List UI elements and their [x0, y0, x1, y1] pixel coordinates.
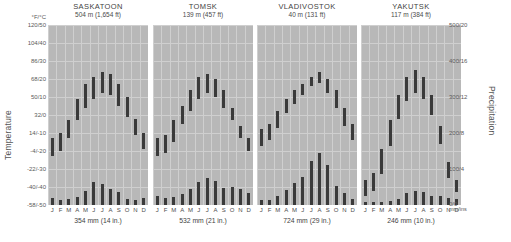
gridline-vertical [428, 25, 429, 205]
gridline-vertical [315, 25, 316, 205]
gridline-vertical [349, 25, 350, 205]
temperature-range-bar [430, 95, 433, 115]
temperature-range-bar [84, 84, 87, 107]
temperature-range-bar [134, 119, 137, 135]
annual-precipitation-total: 724 mm (29 in.) [249, 216, 365, 225]
gridline-vertical [73, 25, 74, 205]
month-label: A [178, 206, 186, 214]
month-axis: JFMAMJJASOND [48, 206, 148, 214]
month-label: D [245, 206, 253, 214]
temperature-range-bar [351, 124, 354, 140]
month-label: M [274, 206, 282, 214]
station-elevation: 139 m (457 ft) [147, 11, 259, 19]
precipitation-bar [231, 187, 234, 205]
month-label: M [81, 206, 89, 214]
precipitation-bar [405, 193, 408, 205]
month-label: J [411, 206, 419, 214]
month-label: J [98, 206, 106, 214]
temperature-axis: Temperature °F/°C 120/50104/4086/3068/20… [0, 0, 48, 242]
gridline-vertical [369, 25, 370, 205]
precipitation-bar [164, 198, 167, 205]
temperature-tick: 120/50 [28, 22, 46, 28]
temperature-range-bar [372, 173, 375, 191]
station-name: TOMSK [147, 2, 259, 11]
month-label: A [73, 206, 81, 214]
precipitation-bar [172, 197, 175, 205]
gridline-vertical [195, 25, 196, 205]
temperature-range-bar [59, 133, 62, 151]
precipitation-bar [293, 183, 296, 205]
temperature-tick: -4/-20 [30, 148, 46, 154]
temperature-range-bar [364, 180, 367, 196]
precipitation-bar [326, 165, 329, 205]
temperature-tick: 104/40 [28, 40, 46, 46]
temperature-range-bar [310, 77, 313, 86]
precipitation-bar [380, 202, 383, 205]
precipitation-bar [276, 196, 279, 205]
panel-header: VLADIVOSTOK40 m (131 ft) [251, 2, 363, 19]
precipitation-bar [389, 201, 392, 205]
precipitation-tick: 200/8 [449, 130, 464, 136]
month-label: J [361, 206, 369, 214]
gridline-vertical [170, 25, 171, 205]
month-label: F [265, 206, 273, 214]
month-label: N [236, 206, 244, 214]
month-label: M [394, 206, 402, 214]
gridline-vertical [236, 25, 237, 205]
month-label: J [403, 206, 411, 214]
gridline-vertical [161, 25, 162, 205]
precipitation-axis: 500/20400/16300/12200/8100/40/0 mm/ins [449, 0, 511, 242]
precipitation-bar [268, 200, 271, 205]
temperature-range-bar [405, 77, 408, 100]
temperature-range-bar [189, 90, 192, 112]
precipitation-bar [260, 200, 263, 205]
gridline-vertical [65, 25, 66, 205]
temperature-range-bar [276, 111, 279, 127]
temperature-range-bar [301, 84, 304, 95]
gridline-vertical [81, 25, 82, 205]
precipitation-bar [189, 189, 192, 205]
precipitation-bar [439, 196, 442, 205]
precipitation-bar [372, 202, 375, 205]
temperature-range-bar [422, 77, 425, 99]
plot-area [361, 25, 461, 205]
climograph-panel: SASKATOON504 m (1,654 ft)JFMAMJJASOND354… [48, 0, 148, 242]
precipitation-bar [84, 191, 87, 205]
month-label: J [90, 206, 98, 214]
gridline-vertical [411, 25, 412, 205]
month-label: J [153, 206, 161, 214]
gridline-vertical [56, 25, 57, 205]
month-label: S [220, 206, 228, 214]
month-label: M [186, 206, 194, 214]
month-label: A [315, 206, 323, 214]
gridline-vertical [436, 25, 437, 205]
climograph-panel: TOMSK139 m (457 ft)JFMAMJJASOND532 mm (2… [153, 0, 253, 242]
temperature-range-bar [239, 126, 242, 139]
gridline-vertical [48, 25, 49, 205]
precipitation-bar [156, 196, 159, 205]
temperature-range-bar [293, 90, 296, 104]
plot-area [48, 25, 148, 205]
temperature-range-bar [343, 108, 346, 126]
climograph-panel: YAKUTSK117 m (384 ft)JFMAMJJASOND246 mm … [361, 0, 461, 242]
gridline-vertical [274, 25, 275, 205]
annual-precipitation-total: 532 mm (21 in.) [145, 216, 261, 225]
precipitation-bar [76, 197, 79, 205]
station-elevation: 504 m (1,654 ft) [42, 11, 154, 19]
month-axis: JFMAMJJASOND [361, 206, 461, 214]
temperature-tick: -22/-30 [27, 166, 46, 172]
month-label: O [436, 206, 444, 214]
station-name: VLADIVOSTOK [251, 2, 363, 11]
gridline-vertical [324, 25, 325, 205]
precipitation-tick: 100/4 [449, 166, 464, 172]
temperature-range-bar [326, 79, 329, 93]
precipitation-bar [364, 202, 367, 205]
month-label: O [332, 206, 340, 214]
temperature-range-bar [389, 120, 392, 145]
temperature-tick: 14/-10 [29, 130, 46, 136]
month-label: A [419, 206, 427, 214]
month-label: N [340, 206, 348, 214]
temperature-range-bar [206, 74, 209, 94]
station-name: SASKATOON [42, 2, 154, 11]
gridline-vertical [123, 25, 124, 205]
